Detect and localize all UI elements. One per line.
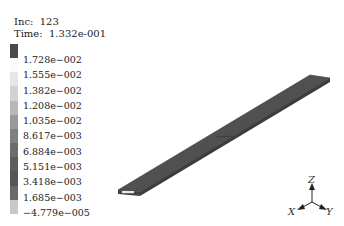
- x-arrow-icon: [297, 204, 305, 210]
- beam-end-hollow: [122, 191, 134, 193]
- y-axis-label: Y: [326, 206, 334, 217]
- x-axis-label: X: [287, 206, 296, 217]
- viewport[interactable]: Z X Y: [0, 0, 344, 226]
- axis-triad: Z X Y: [287, 174, 334, 217]
- beam-side-face: [140, 78, 330, 196]
- z-axis-label: Z: [307, 174, 316, 185]
- beam-top-face: [118, 75, 330, 192]
